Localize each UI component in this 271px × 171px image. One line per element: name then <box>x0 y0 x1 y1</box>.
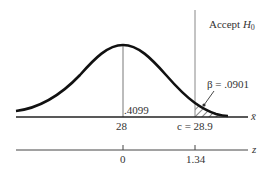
beta-arrow <box>204 91 214 105</box>
z-tick-label-1: 1.34 <box>186 153 206 165</box>
z-axis-label: z <box>251 143 257 155</box>
beta-arrow-head <box>202 103 205 106</box>
beta-label: β = .0901 <box>207 78 249 90</box>
area-label: .4099 <box>124 104 149 116</box>
normal-distribution-diagram: Accept H0 β = .0901 .4099 28 c = 28.9 x̄… <box>0 0 271 171</box>
mean-tick-label: 28 <box>116 120 128 132</box>
x-bar-axis-label: x̄ <box>250 110 256 122</box>
normal-curve <box>16 45 228 116</box>
critical-value-label: c = 28.9 <box>177 120 213 132</box>
accept-h0-label: Accept H0 <box>209 18 255 32</box>
z-tick-label-0: 0 <box>120 153 126 165</box>
